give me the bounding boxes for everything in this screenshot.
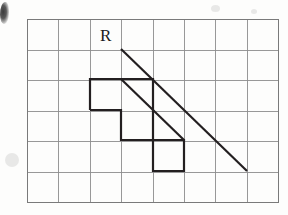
diagram-canvas: R [0, 0, 288, 215]
geometry-figure [0, 0, 288, 215]
region-label-R: R [100, 27, 111, 44]
